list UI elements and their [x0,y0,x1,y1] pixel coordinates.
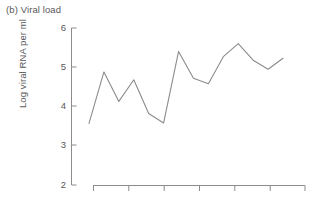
plot-area [0,0,312,204]
viral-load-chart-figure: (b) Viral load Log viral RNA per ml 6 5 … [0,0,312,204]
viral-load-series-line [89,44,283,124]
x-axis-ticks [94,186,306,192]
y-axis-ticks [72,28,77,185]
